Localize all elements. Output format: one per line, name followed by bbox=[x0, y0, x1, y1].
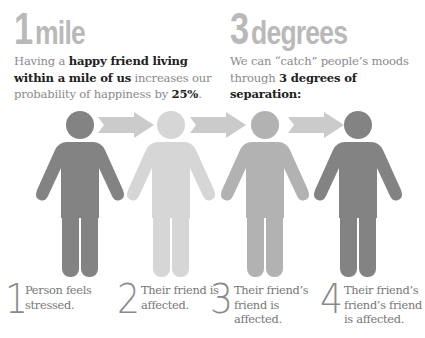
step-text: Their friend is affected. bbox=[141, 283, 221, 312]
stat-description-3-degrees: We can “catch” people’s moods through 3 … bbox=[230, 53, 420, 103]
person-figure-2-icon bbox=[127, 111, 215, 277]
step-number: 3 bbox=[210, 279, 233, 319]
people-chain-illustration bbox=[0, 100, 425, 285]
desc-text: . bbox=[198, 87, 202, 101]
step-text: Their friend’s friend’s friend is affect… bbox=[344, 283, 425, 327]
stat-headline-3-degrees: 3 degrees bbox=[230, 7, 347, 51]
stat-headline-1-mile: 1 mile bbox=[14, 7, 85, 51]
stat-unit: mile bbox=[35, 13, 85, 51]
stat-number: 1 bbox=[14, 4, 32, 53]
stat-unit: degrees bbox=[251, 13, 347, 51]
step-number: 2 bbox=[117, 279, 140, 319]
stat-number: 3 bbox=[230, 4, 248, 53]
desc-bold-percent: 25% bbox=[172, 87, 199, 101]
arrow-right-icon bbox=[190, 112, 246, 138]
step-text: Their friend’s friend is affected. bbox=[234, 283, 309, 327]
step-number: 4 bbox=[320, 279, 343, 319]
person-figure-1-icon bbox=[36, 111, 124, 277]
person-figure-3-icon bbox=[221, 111, 309, 277]
arrow-right-icon bbox=[288, 112, 344, 138]
stat-description-1-mile: Having a happy friend living within a mi… bbox=[14, 53, 219, 103]
arrow-right-icon bbox=[98, 112, 154, 138]
step-text: Person feels stressed. bbox=[25, 283, 100, 312]
desc-text: Having a bbox=[14, 54, 69, 68]
